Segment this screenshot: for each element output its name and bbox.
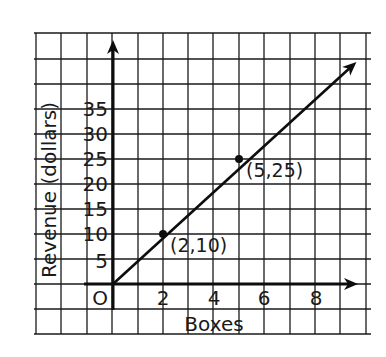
y-tick-15: 15 (83, 197, 108, 221)
y-tick-25: 25 (83, 147, 108, 171)
y-tick-35: 35 (83, 97, 108, 121)
x-tick-6: 6 (258, 286, 271, 310)
y-tick-20: 20 (83, 172, 108, 196)
x-axis-label: Boxes (184, 312, 243, 336)
data-point-2-10 (159, 230, 167, 238)
y-axis-label: Revenue (dollars) (37, 102, 61, 278)
y-tick-10: 10 (83, 222, 108, 246)
point-label-5-25: (5,25) (246, 159, 303, 181)
y-tick-30: 30 (83, 122, 108, 146)
x-tick-2: 2 (157, 286, 170, 310)
revenue-line (113, 66, 352, 284)
x-tick-8: 8 (310, 286, 323, 310)
y-tick-5: 5 (95, 249, 108, 273)
line-chart: (2,10) (5,25) 35 30 25 20 15 10 5 O 2 4 … (0, 0, 386, 357)
origin-label: O (92, 286, 108, 310)
x-tick-4: 4 (208, 286, 221, 310)
data-point-5-25 (235, 155, 243, 163)
point-label-2-10: (2,10) (170, 234, 227, 256)
